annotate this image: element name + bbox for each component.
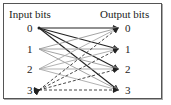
input-node-0	[38, 27, 41, 30]
bit-mapping-edges	[0, 0, 171, 105]
